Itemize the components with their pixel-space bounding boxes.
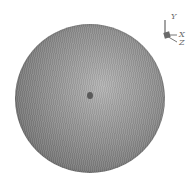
center-point-marker bbox=[87, 92, 93, 99]
z-axis-label: Z bbox=[179, 39, 185, 47]
axis-triad: Y X Z bbox=[158, 10, 192, 50]
3d-viewport[interactable]: Y X Z bbox=[0, 0, 194, 186]
y-axis-label: Y bbox=[171, 13, 176, 21]
